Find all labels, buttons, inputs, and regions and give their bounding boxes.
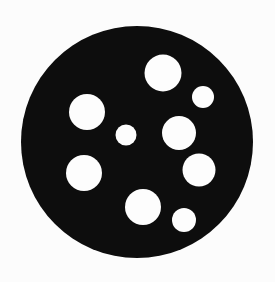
hole-upper-left-large bbox=[69, 94, 105, 130]
hole-center-small bbox=[116, 125, 137, 146]
perforated-disc-figure bbox=[0, 0, 275, 282]
hole-bottom-center bbox=[125, 189, 161, 225]
figure-canvas bbox=[0, 0, 275, 282]
hole-middle-right bbox=[162, 116, 196, 150]
hole-lower-right bbox=[183, 154, 216, 187]
hole-bottom-right-small bbox=[172, 208, 196, 232]
hole-top-right-small bbox=[192, 86, 214, 108]
hole-lower-left-large bbox=[66, 155, 102, 191]
hole-top-large bbox=[145, 55, 182, 92]
